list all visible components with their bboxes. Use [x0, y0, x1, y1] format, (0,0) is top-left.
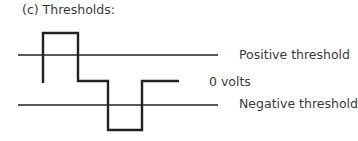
- zero-volts-label: 0 volts: [209, 74, 251, 89]
- negative-threshold-label: Negative threshold: [239, 96, 358, 111]
- positive-threshold-label: Positive threshold: [239, 47, 350, 62]
- signal-waveform: [43, 33, 179, 130]
- threshold-diagram: [0, 0, 358, 141]
